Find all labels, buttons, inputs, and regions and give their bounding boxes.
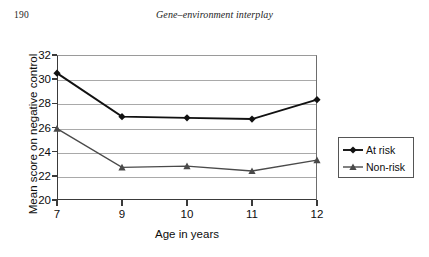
gridline [58, 177, 316, 178]
gridline [58, 153, 316, 154]
plot-area [57, 55, 317, 200]
y-tick-mark [52, 151, 57, 152]
diamond-marker-icon [343, 144, 363, 156]
x-axis-title: Age in years [57, 228, 317, 240]
gridline [58, 129, 316, 130]
x-tick-label: 12 [297, 208, 337, 220]
legend-item: Non-risk [343, 159, 405, 175]
y-tick-mark [52, 78, 57, 79]
x-tick-mark [251, 200, 252, 206]
x-tick-mark [56, 200, 57, 206]
x-tick-mark [316, 200, 317, 206]
x-tick-label: 10 [167, 208, 207, 220]
chart-legend: At riskNon-risk [338, 137, 414, 178]
y-axis-title: Mean score on negative control [27, 49, 39, 219]
legend-item: At risk [343, 142, 395, 158]
triangle-marker-icon [343, 161, 363, 173]
gridline [58, 104, 316, 105]
x-tick-mark [186, 200, 187, 206]
y-tick-mark [52, 175, 57, 176]
legend-label: Non-risk [366, 161, 405, 173]
line-chart-figure: 20222426283032 79101112 Mean score on ne… [0, 34, 429, 257]
running-head-title: Gene–environment interplay [0, 9, 429, 20]
y-tick-mark [52, 103, 57, 104]
legend-label: At risk [366, 144, 395, 156]
y-tick-mark [52, 54, 57, 55]
x-tick-label: 7 [37, 208, 77, 220]
x-tick-label: 9 [102, 208, 142, 220]
x-tick-mark [121, 200, 122, 206]
x-tick-label: 11 [232, 208, 272, 220]
figure-page: 190 Gene–environment interplay 202224262… [0, 0, 429, 257]
y-tick-mark [52, 127, 57, 128]
gridline [58, 80, 316, 81]
